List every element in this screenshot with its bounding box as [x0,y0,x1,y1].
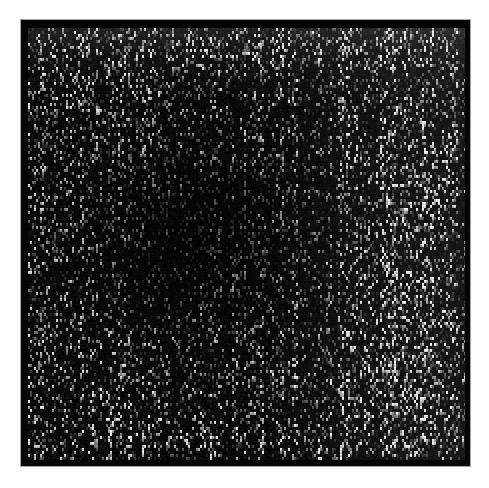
page-root: Dense random grayscale noise field; most… [0,0,489,488]
noise-texture-canvas [28,28,465,460]
image-frame [21,20,470,466]
noise-field [28,28,465,460]
